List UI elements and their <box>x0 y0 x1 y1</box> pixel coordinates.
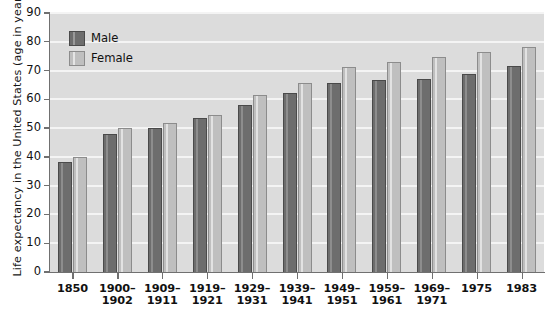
y-axis-tick-label: 60 <box>0 93 41 105</box>
x-axis-tick <box>72 272 73 279</box>
x-axis-tick <box>252 272 253 279</box>
y-axis-tick <box>44 12 50 13</box>
x-axis-tick-label-line2: 1971 <box>398 295 466 307</box>
x-axis-tick <box>387 272 388 279</box>
y-axis-tick <box>44 185 50 186</box>
y-axis-tick-label: 50 <box>0 122 41 134</box>
bar-male <box>148 128 162 272</box>
bar-male <box>238 105 252 272</box>
bar-female <box>342 67 356 272</box>
x-axis-tick <box>477 272 478 279</box>
bar-female <box>73 157 87 272</box>
bar-male <box>507 66 521 272</box>
y-axis-tick-label: 20 <box>0 208 41 220</box>
x-axis-tick <box>342 272 343 279</box>
x-axis-tick <box>297 272 298 279</box>
bar-female <box>432 57 446 272</box>
y-axis-tick-label: 40 <box>0 151 41 163</box>
legend-label-male: Male <box>91 33 118 45</box>
bar-female <box>522 47 536 272</box>
bar-male <box>283 93 297 272</box>
y-axis-tick <box>44 99 50 100</box>
y-axis-tick <box>44 243 50 244</box>
x-axis-tick <box>432 272 433 279</box>
y-axis-tick <box>44 70 50 71</box>
y-axis-tick-label: 0 <box>0 266 41 278</box>
y-axis-tick-label: 70 <box>0 65 41 77</box>
bar-female <box>163 123 177 272</box>
legend-swatch-female-icon <box>69 51 85 66</box>
bar-female <box>387 62 401 272</box>
x-axis-tick <box>162 272 163 279</box>
x-axis-tick-label-line1: 1983 <box>506 282 537 295</box>
legend-swatch-male-icon <box>69 31 85 46</box>
bar-female <box>298 83 312 272</box>
bar-female <box>253 95 267 272</box>
legend-item-male[interactable]: Male <box>69 30 133 47</box>
y-axis-tick <box>44 127 50 128</box>
y-axis-tick-label: 30 <box>0 180 41 192</box>
y-axis-tick <box>44 156 50 157</box>
y-axis-tick <box>44 214 50 215</box>
bar-male <box>462 74 476 272</box>
bar-male <box>103 134 117 272</box>
bar-male <box>193 118 207 272</box>
bar-male <box>372 80 386 272</box>
bar-female <box>477 52 491 272</box>
y-axis-tick-label: 10 <box>0 237 41 249</box>
y-axis-tick <box>44 271 50 272</box>
legend-item-female[interactable]: Female <box>69 50 133 67</box>
legend: Male Female <box>69 30 133 70</box>
x-axis-tick-label: 1983 <box>488 283 549 295</box>
y-axis-tick-label: 90 <box>0 7 41 19</box>
bar-female <box>208 115 222 272</box>
bar-male <box>417 79 431 272</box>
x-axis-tick <box>207 272 208 279</box>
bar-chart: Life expectancy in the United States (ag… <box>0 0 549 313</box>
bar-female <box>118 128 132 272</box>
y-axis-tick <box>44 41 50 42</box>
legend-label-female: Female <box>91 53 133 65</box>
x-axis-tick <box>117 272 118 279</box>
x-axis-tick <box>522 272 523 279</box>
y-axis-line <box>49 12 50 273</box>
bar-male <box>58 162 72 272</box>
bar-male <box>327 83 341 272</box>
y-axis-tick-label: 80 <box>0 36 41 48</box>
